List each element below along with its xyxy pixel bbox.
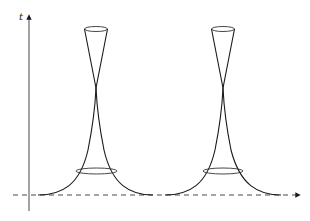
spacetime-diagram: t — [0, 0, 310, 221]
left-spike-top-ellipse — [85, 27, 108, 32]
left-spike — [38, 27, 153, 196]
right-spike-curve-b — [212, 29, 282, 195]
right-spike-curve-a — [165, 29, 235, 195]
right-spike-lower-ellipse — [203, 168, 243, 174]
time-axis-label: t — [19, 11, 24, 22]
left-spike-curve-b — [85, 29, 154, 195]
left-spike-curve-a — [38, 29, 108, 195]
right-spike-top-ellipse — [212, 27, 235, 32]
right-spike — [165, 27, 281, 196]
